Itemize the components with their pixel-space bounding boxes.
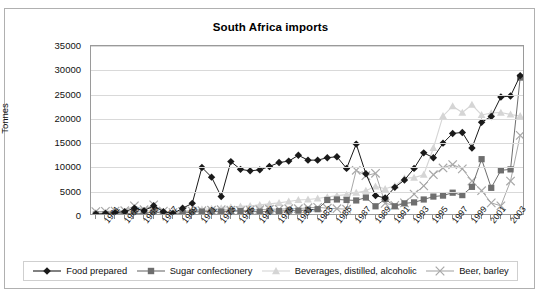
data-point-marker [363,194,369,200]
data-point-marker [506,177,514,185]
x-axis-tick-labels: 1961196319651967196919711973197519771979… [90,219,530,265]
gridline [91,70,523,71]
data-point-marker [411,199,417,205]
y-axis-tick-label: 25000 [55,88,81,99]
y-axis-tick-label: 10000 [55,161,81,172]
data-point-marker [392,203,398,209]
legend-swatch-cross [425,265,455,277]
data-point-marker [362,187,370,194]
gridline [91,95,523,96]
y-axis-title: Tonnes [0,103,10,134]
legend-swatch-triangle [261,265,291,277]
gridline [91,192,523,193]
data-point-marker [362,170,369,177]
data-point-marker [353,197,359,203]
data-point-marker [429,144,437,151]
legend-label: Beverages, distilled, alcoholic [293,266,417,276]
legend-item-beer-barley[interactable]: Beer, barley [425,265,509,277]
legend-label: Food prepared [64,266,127,276]
y-axis-tick-label: 30000 [55,64,81,75]
legend-item-food-prepared[interactable]: Food prepared [32,265,127,277]
data-point-marker [372,192,379,199]
y-axis-tick-label: 35000 [55,40,81,51]
data-point-marker [420,149,427,156]
data-point-marker [295,152,302,159]
data-point-marker [479,156,485,162]
data-point-marker [218,193,225,200]
data-point-marker [324,154,331,161]
data-point-marker [304,156,311,163]
plot-area-wrapper: Tonnes 050001000015000200002500030000350… [5,9,536,290]
y-axis-tick-label: 0 [76,210,81,221]
data-point-marker [420,171,428,178]
data-point-marker [469,184,475,190]
series-canvas [91,46,524,215]
data-point-marker [487,199,495,207]
plot-area [90,45,524,215]
legend-label: Sugar confectionery [168,266,253,276]
data-point-marker [458,165,466,173]
gridline [91,143,523,144]
legend-item-beverages-distilled-alcoholic[interactable]: Beverages, distilled, alcoholic [261,265,417,277]
data-point-marker [420,182,428,190]
data-point-marker [371,169,379,177]
data-point-marker [440,193,446,199]
gridline [91,119,523,120]
legend-label: Beer, barley [457,266,509,276]
y-axis-tick-labels: 05000100001500020000250003000035000 [19,37,85,223]
series-line [96,78,520,215]
data-point-marker [43,267,51,275]
gridline [91,167,523,168]
data-point-marker [334,196,340,202]
data-point-marker [459,192,465,198]
data-point-marker [285,157,292,164]
data-point-marker [507,92,514,99]
gridline [91,46,523,47]
data-point-marker [343,197,349,203]
data-point-marker [421,196,427,202]
y-axis-tick-label: 15000 [55,137,81,148]
data-point-marker [372,203,378,209]
legend-swatch-square [136,265,166,277]
data-point-marker [488,185,494,191]
data-point-marker [324,197,330,203]
data-point-marker [429,171,437,179]
data-point-marker [449,102,457,109]
chart-legend: Food preparedSugar confectioneryBeverage… [23,261,518,281]
data-point-marker [314,156,321,163]
y-axis-tick-label: 20000 [55,112,81,123]
data-point-marker [147,268,153,274]
data-point-marker [430,193,436,199]
y-axis-tick-label: 5000 [60,185,81,196]
data-point-marker [275,159,282,166]
data-point-marker [468,144,475,151]
legend-swatch-diamond [32,265,62,277]
data-point-marker [459,129,466,136]
legend-item-sugar-confectionery[interactable]: Sugar confectionery [136,265,253,277]
data-point-marker [468,101,476,108]
chart-frame: South Africa imports Tonnes 050001000015… [4,8,535,289]
